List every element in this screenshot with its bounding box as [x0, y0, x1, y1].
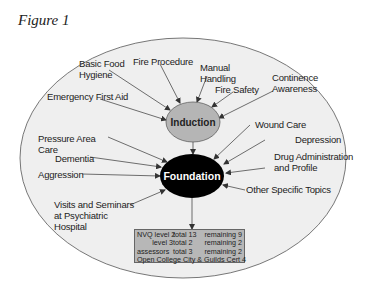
induction-label: Induction [171, 117, 216, 128]
label-pressure-area-care: Pressure AreaCare [38, 133, 96, 155]
label-aggression: Aggression [38, 169, 84, 180]
label-manual-handling: ManualHandling [200, 62, 236, 84]
label-drug-administration: Drug Administrationand Profile [274, 151, 353, 173]
label-other-specific-topics: Other Specific Topics [246, 184, 331, 195]
label-continence-awareness: ContinenceAwareness [272, 72, 318, 94]
label-basic-food-hygiene: Basic FoodHygiene [79, 58, 125, 80]
label-wound-care: Wound Care [255, 119, 306, 130]
label-depression: Depression [295, 134, 341, 145]
label-dementia: Dementia [55, 153, 94, 164]
label-emergency-first-aid: Emergency First Aid [47, 91, 128, 102]
label-fire-safety: Fire Safety [215, 84, 259, 95]
summary-footer: Open College City & Guilds Cert 4 [137, 256, 242, 264]
label-visits-seminars: Visits and Seminarsat PsychiatricHospita… [54, 199, 134, 232]
foundation-label: Foundation [163, 170, 220, 182]
label-fire-procedure: Fire Procedure [133, 56, 193, 67]
summary-box: NVQ level 2total 13remaining 9 level 3to… [134, 229, 245, 263]
